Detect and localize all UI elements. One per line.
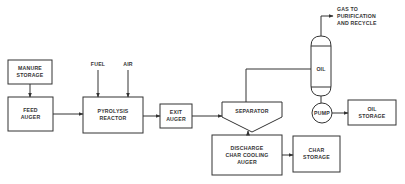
oil-vessel-node: OIL: [311, 62, 331, 76]
exit-auger-node: EXIT AUGER: [160, 104, 192, 128]
manure-storage-node: MANURE STORAGE: [8, 60, 52, 84]
oil-storage-node: OIL STORAGE: [348, 100, 396, 125]
feed-auger-label-2: AUGER: [21, 114, 41, 121]
discharge-label-3: AUGER: [237, 159, 257, 166]
discharge-label-2: CHAR COOLING: [225, 152, 268, 159]
exit-auger-label-2: AUGER: [166, 116, 186, 123]
flow-diagram-canvas: [0, 0, 405, 184]
air-input-label: AIR: [116, 61, 140, 68]
gas-label-3: AND RECYCLE: [337, 20, 377, 27]
gas-label-1: GAS TO: [337, 6, 377, 13]
char-storage-node: CHAR STORAGE: [293, 136, 340, 172]
pyrolysis-reactor-node: PYROLYSIS REACTOR: [83, 97, 143, 133]
pump-label: PUMP: [314, 110, 330, 117]
pyrolysis-reactor-label-1: PYROLYSIS: [97, 108, 128, 115]
discharge-auger-node: DISCHARGE CHAR COOLING AUGER: [212, 135, 282, 175]
pyrolysis-reactor-label-2: REACTOR: [100, 115, 127, 122]
separator-label: SEPARATOR: [235, 108, 269, 115]
feed-auger-label-1: FEED: [23, 107, 38, 114]
oil-vessel-label: OIL: [316, 66, 325, 73]
feed-auger-node: FEED AUGER: [8, 97, 53, 131]
gas-label-2: PURIFICATION: [337, 13, 377, 20]
char-storage-label-1: CHAR: [309, 147, 325, 154]
manure-storage-label-2: STORAGE: [17, 72, 44, 79]
gas-output-label: GAS TO PURIFICATION AND RECYCLE: [337, 6, 377, 27]
exit-auger-label-1: EXIT: [170, 109, 182, 116]
oil-storage-label-2: STORAGE: [359, 113, 386, 120]
pump-node: PUMP: [312, 106, 332, 120]
fuel-input-label: FUEL: [86, 61, 110, 68]
discharge-label-1: DISCHARGE: [231, 145, 264, 152]
separator-node: SEPARATOR: [222, 104, 282, 118]
char-storage-label-2: STORAGE: [303, 154, 330, 161]
oil-storage-label-1: OIL: [367, 106, 376, 113]
manure-storage-label-1: MANURE: [18, 65, 42, 72]
